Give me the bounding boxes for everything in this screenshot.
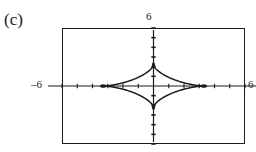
- figure-container: (c) 6 –6 6: [0, 0, 256, 152]
- plot-frame: [62, 28, 245, 144]
- part-label: (c): [4, 11, 23, 28]
- clipped-caption-text: [38, 0, 130, 3]
- axis-label-left: –6: [31, 79, 42, 90]
- axis-label-right: 6: [248, 79, 254, 90]
- axis-label-top: 6: [146, 11, 152, 22]
